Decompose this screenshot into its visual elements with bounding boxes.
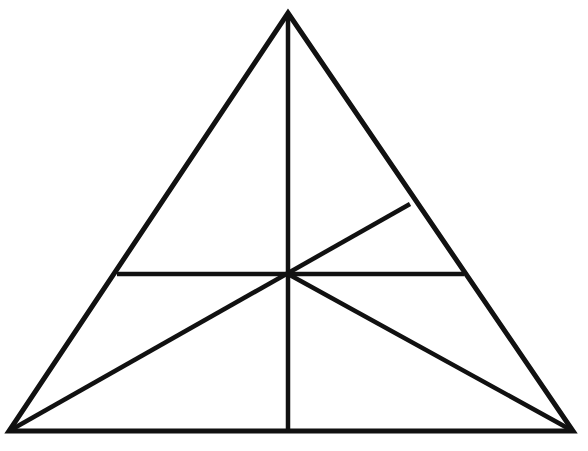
triangle-diagram: Equilateral triangle with internal cevia…: [0, 0, 588, 451]
figure-canvas: Equilateral triangle with internal cevia…: [0, 0, 588, 451]
figure-background: [0, 0, 588, 451]
